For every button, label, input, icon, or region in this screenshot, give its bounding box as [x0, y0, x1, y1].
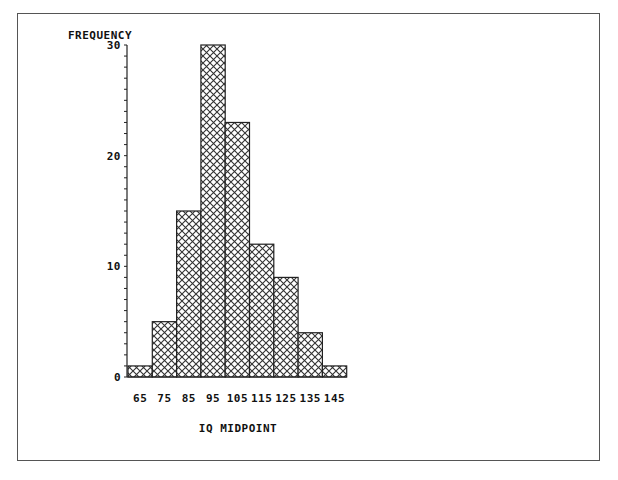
x-axis-label: IQ MIDPOINT — [199, 422, 277, 435]
y-tick-label: 20 — [107, 150, 121, 163]
x-axis-tick-labels: 65758595105115125135145 — [133, 392, 345, 405]
y-axis: 0102030 — [107, 39, 127, 384]
x-tick-label: 75 — [157, 392, 171, 405]
y-tick-label: 30 — [107, 39, 121, 52]
bar-75 — [152, 322, 176, 377]
x-tick-label: 145 — [324, 392, 345, 405]
bar-135 — [298, 333, 322, 377]
bar-95 — [201, 45, 225, 377]
bar-115 — [250, 244, 274, 377]
x-tick-label: 65 — [133, 392, 147, 405]
y-tick-label: 0 — [114, 371, 121, 384]
bar-145 — [322, 366, 346, 377]
bars — [127, 45, 347, 377]
x-tick-label: 125 — [275, 392, 296, 405]
x-tick-label: 115 — [251, 392, 272, 405]
x-tick-label: 95 — [206, 392, 220, 405]
bar-125 — [274, 277, 298, 377]
bar-65 — [128, 366, 152, 377]
bar-85 — [177, 211, 201, 377]
x-tick-label: 85 — [182, 392, 196, 405]
histogram-chart: FREQUENCY 0102030 6575859510511512513514… — [0, 0, 618, 480]
x-tick-label: 105 — [227, 392, 248, 405]
y-axis-label: FREQUENCY — [68, 29, 132, 42]
x-tick-label: 135 — [300, 392, 321, 405]
y-tick-label: 10 — [107, 260, 121, 273]
bar-105 — [225, 122, 249, 377]
